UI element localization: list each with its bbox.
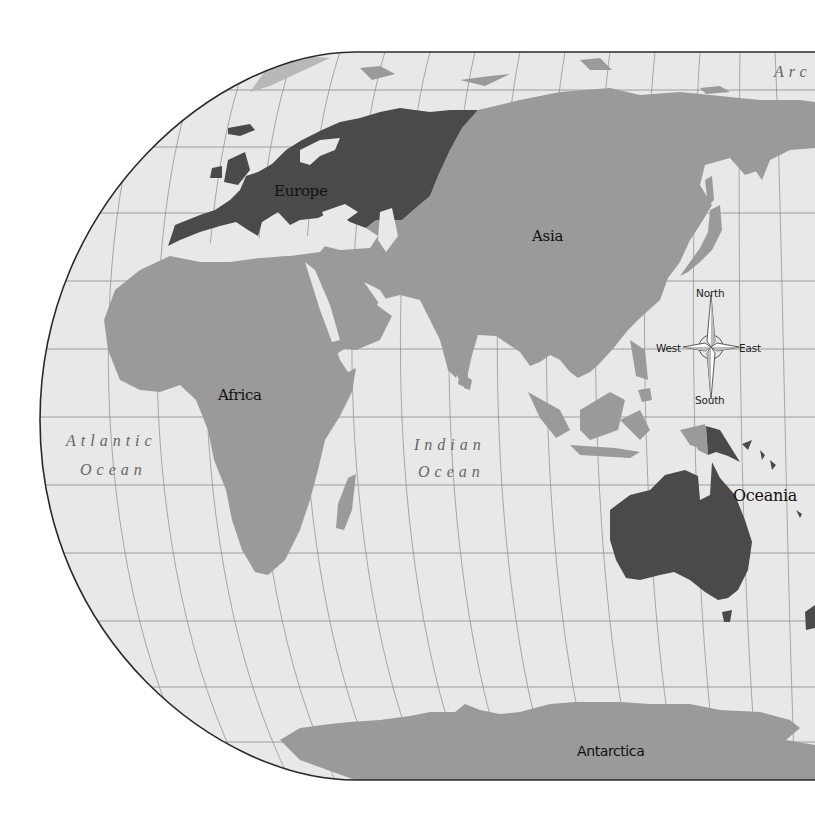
- map-canvas: [0, 0, 815, 826]
- antarctica-label: Antarctica: [577, 743, 644, 759]
- indian-ocean-label-line2: Ocean: [418, 463, 485, 481]
- atlantic-ocean-label-line2: Ocean: [80, 461, 147, 479]
- compass-south-label: South: [695, 394, 725, 406]
- arctic-ocean-label: Arc: [774, 63, 812, 81]
- compass-east-label: East: [739, 342, 761, 354]
- asia-label: Asia: [532, 227, 563, 245]
- oceania-label: Oceania: [733, 486, 797, 505]
- africa-label: Africa: [218, 386, 262, 404]
- europe-label: Europe: [274, 182, 328, 200]
- indian-ocean-label-line1: Indian: [414, 436, 486, 454]
- atlantic-ocean-label-line1: Atlantic: [66, 432, 157, 450]
- compass-west-label: West: [656, 342, 681, 354]
- world-map: Europe Asia Africa Oceania Antarctica At…: [0, 0, 815, 826]
- compass-north-label: North: [696, 287, 724, 299]
